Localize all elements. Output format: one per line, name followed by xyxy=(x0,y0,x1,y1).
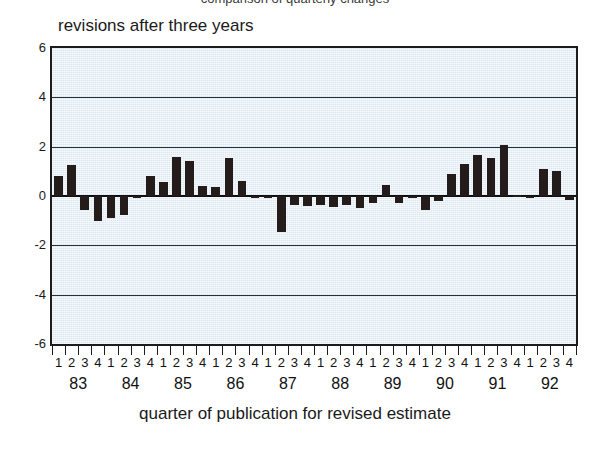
gridline-4 xyxy=(52,97,576,98)
bar xyxy=(120,196,129,215)
x-quarter-label: 1 xyxy=(156,355,170,370)
bar xyxy=(356,196,365,208)
x-tick xyxy=(511,346,512,355)
bar xyxy=(251,196,260,198)
y-tick-label: 6 xyxy=(4,41,46,54)
chart-figure: comparison of quarterly changes revision… xyxy=(0,0,590,449)
x-quarter-label: 1 xyxy=(314,355,328,370)
x-quarter-label: 1 xyxy=(209,355,223,370)
x-quarter-label: 3 xyxy=(340,355,354,370)
x-axis-year-labels: 83848586878889909192 xyxy=(50,374,578,396)
x-quarter-label: 4 xyxy=(248,355,262,370)
x-quarter-label: 4 xyxy=(562,355,576,370)
bar xyxy=(146,176,155,196)
bar xyxy=(382,185,391,196)
x-quarter-label: 1 xyxy=(471,355,485,370)
bar xyxy=(552,171,561,196)
bar xyxy=(395,196,404,203)
bar xyxy=(369,196,378,203)
y-tick-label: 0 xyxy=(4,189,46,202)
plot-area xyxy=(50,46,578,346)
bar xyxy=(342,196,351,205)
x-tick xyxy=(524,346,525,355)
bar xyxy=(94,196,103,221)
x-year-label: 92 xyxy=(530,374,570,393)
y-tick-label: -4 xyxy=(4,288,46,301)
x-quarter-label: 2 xyxy=(536,355,550,370)
x-quarter-label: 3 xyxy=(392,355,406,370)
bar xyxy=(565,196,574,200)
top-caption-clipped: comparison of quarterly changes xyxy=(0,0,590,7)
x-tick xyxy=(537,346,538,355)
x-tick xyxy=(366,346,367,355)
x-tick xyxy=(380,346,381,355)
y-tick-label: 4 xyxy=(4,90,46,103)
x-quarter-label: 3 xyxy=(235,355,249,370)
x-year-label: 87 xyxy=(268,374,308,393)
x-tick xyxy=(484,346,485,355)
bar xyxy=(303,196,312,206)
x-year-label: 84 xyxy=(111,374,151,393)
gridline--4 xyxy=(52,295,576,296)
x-tick xyxy=(419,346,420,355)
x-tick xyxy=(275,346,276,355)
x-tick xyxy=(340,346,341,355)
x-tick xyxy=(209,346,210,355)
x-tick xyxy=(563,346,564,355)
x-axis-quarter-labels: 1234123412341234123412341234123412341234 xyxy=(50,355,578,373)
x-year-label: 90 xyxy=(425,374,465,393)
x-tick xyxy=(353,346,354,355)
bar xyxy=(172,157,181,196)
x-quarter-label: 4 xyxy=(143,355,157,370)
y-tick-label: -6 xyxy=(4,337,46,350)
x-tick xyxy=(78,346,79,355)
x-quarter-label: 4 xyxy=(353,355,367,370)
bar xyxy=(159,182,168,196)
x-year-label: 85 xyxy=(163,374,203,393)
x-quarter-label: 4 xyxy=(458,355,472,370)
bar xyxy=(526,196,535,198)
x-quarter-label: 1 xyxy=(418,355,432,370)
bar xyxy=(473,155,482,196)
x-quarter-label: 4 xyxy=(510,355,524,370)
bar xyxy=(447,174,456,196)
x-tick xyxy=(131,346,132,355)
x-quarter-label: 3 xyxy=(497,355,511,370)
x-axis-title: quarter of publication for revised estim… xyxy=(0,404,590,424)
bar xyxy=(264,196,273,198)
x-tick xyxy=(91,346,92,355)
x-tick xyxy=(458,346,459,355)
bar xyxy=(316,196,325,205)
x-quarter-label: 3 xyxy=(183,355,197,370)
y-tick-label: 2 xyxy=(4,140,46,153)
bar xyxy=(513,195,522,197)
bar xyxy=(277,196,286,232)
x-quarter-label: 4 xyxy=(91,355,105,370)
gridline--2 xyxy=(52,245,576,246)
x-tick xyxy=(471,346,472,355)
x-quarter-label: 2 xyxy=(327,355,341,370)
x-year-label: 83 xyxy=(58,374,98,393)
x-tick xyxy=(497,346,498,355)
x-tick xyxy=(196,346,197,355)
x-quarter-label: 2 xyxy=(222,355,236,370)
bar xyxy=(238,181,247,196)
x-tick xyxy=(288,346,289,355)
x-quarter-label: 1 xyxy=(366,355,380,370)
x-tick xyxy=(118,346,119,355)
x-tick xyxy=(222,346,223,355)
x-quarter-label: 2 xyxy=(169,355,183,370)
plot-title: revisions after three years xyxy=(58,16,254,36)
x-year-label: 89 xyxy=(373,374,413,393)
x-quarter-label: 1 xyxy=(523,355,537,370)
x-quarter-label: 2 xyxy=(431,355,445,370)
x-tick xyxy=(249,346,250,355)
x-quarter-label: 3 xyxy=(78,355,92,370)
x-quarter-label: 2 xyxy=(379,355,393,370)
x-quarter-label: 1 xyxy=(261,355,275,370)
bar xyxy=(434,196,443,201)
x-tick xyxy=(157,346,158,355)
bar xyxy=(408,196,417,198)
bar xyxy=(421,196,430,210)
x-tick xyxy=(301,346,302,355)
